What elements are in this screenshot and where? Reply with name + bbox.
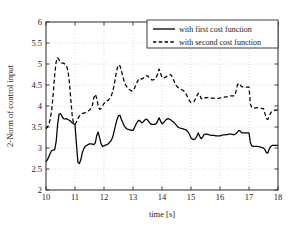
x-tick-label: 18 bbox=[274, 192, 283, 202]
x-tick-label: 10 bbox=[42, 192, 51, 202]
y-tick-label: 2.5 bbox=[31, 164, 42, 174]
y-axis-title: 2-Norm of control input bbox=[5, 64, 15, 147]
y-tick-label: 5.5 bbox=[31, 38, 42, 48]
y-tick-label: 6 bbox=[38, 17, 42, 27]
chart-legend: with first cost functionwith second cost… bbox=[147, 20, 278, 48]
x-tick-label: 14 bbox=[158, 192, 167, 202]
y-tick-label: 3.5 bbox=[31, 122, 42, 132]
legend-label: with first cost function bbox=[179, 25, 252, 34]
y-tick-label: 4.5 bbox=[31, 80, 42, 90]
y-tick-label: 5 bbox=[38, 59, 42, 69]
x-tick-label: 13 bbox=[129, 192, 138, 202]
y-tick-label: 4 bbox=[38, 101, 43, 111]
x-tick-label: 17 bbox=[245, 192, 254, 202]
x-tick-label: 16 bbox=[216, 192, 225, 202]
line-chart: 22.533.544.555.56 101112131415161718 wit… bbox=[0, 0, 300, 225]
x-tick-label: 15 bbox=[187, 192, 196, 202]
y-tick-label: 3 bbox=[38, 143, 42, 153]
y-tick-labels: 22.533.544.555.56 bbox=[31, 17, 42, 195]
legend-label: with second cost function bbox=[179, 38, 261, 47]
x-tick-label: 11 bbox=[71, 192, 79, 202]
x-tick-label: 12 bbox=[100, 192, 109, 202]
x-tick-labels: 101112131415161718 bbox=[42, 192, 283, 202]
x-axis-title: time [s] bbox=[149, 209, 175, 219]
figure-container: 22.533.544.555.56 101112131415161718 wit… bbox=[0, 0, 300, 225]
